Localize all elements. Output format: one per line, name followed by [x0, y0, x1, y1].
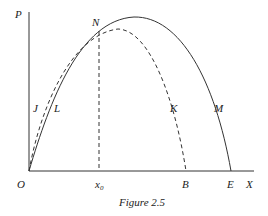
origin-label: O	[17, 178, 25, 190]
point-n-label: N	[91, 16, 100, 28]
curve-j-label: J	[33, 102, 39, 114]
point-e-label: E	[226, 178, 234, 190]
x-axis-label: X	[245, 178, 254, 190]
dashed-curve	[29, 29, 186, 171]
diagram: P N J L K M O x0 B E X Figure 2.5	[0, 0, 268, 216]
curve-k-label: K	[169, 102, 178, 114]
curve-l-label: L	[53, 102, 60, 114]
point-b-label: B	[182, 178, 189, 190]
x0-label: x0	[94, 178, 104, 192]
solid-curve	[29, 17, 231, 171]
curve-m-label: M	[213, 102, 224, 114]
y-axis-label: P	[14, 8, 22, 20]
figure-caption: Figure 2.5	[118, 196, 166, 208]
